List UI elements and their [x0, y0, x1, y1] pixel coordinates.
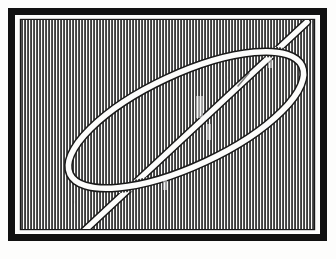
plate-canvas — [0, 0, 336, 259]
engraving-plate — [0, 0, 336, 259]
